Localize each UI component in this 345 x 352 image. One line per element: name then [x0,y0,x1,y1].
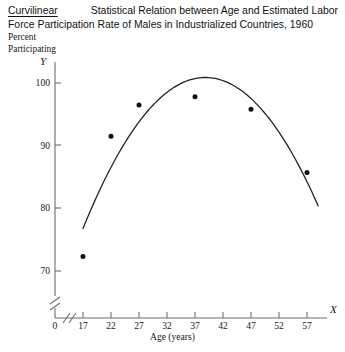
x-tick-label-0: 0 [41,320,69,331]
data-point [305,170,310,175]
x-tick-label-22: 22 [97,320,125,331]
data-point [137,102,142,107]
y-tick-label-100: 100 [14,77,50,88]
data-point [193,94,198,99]
x-tick-marks [83,312,307,318]
plot-area [0,0,345,352]
y-tick-marks [55,83,61,271]
x-tick-label-47: 47 [237,320,265,331]
data-point-group [81,94,310,259]
x-axis-title: Age (years) [0,331,345,342]
x-tick-label-57: 57 [293,320,321,331]
data-point [109,134,114,139]
data-point [81,254,86,259]
y-tick-label-80: 80 [14,202,50,213]
x-tick-label-37: 37 [181,320,209,331]
x-tick-label-42: 42 [209,320,237,331]
data-point [249,107,254,112]
x-tick-label-27: 27 [125,320,153,331]
x-tick-label-17: 17 [69,320,97,331]
chart-figure: CurvilinearStatistical Relation between … [0,0,345,352]
fitted-curve [83,78,318,229]
x-tick-label-52: 52 [265,320,293,331]
y-tick-label-90: 90 [14,140,50,151]
x-tick-label-32: 32 [153,320,181,331]
y-tick-label-70: 70 [14,265,50,276]
